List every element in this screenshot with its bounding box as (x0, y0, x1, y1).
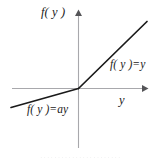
plot-canvas (0, 0, 162, 161)
horizontal-axis-arrowhead (142, 85, 149, 92)
vertical-axis-label: f( y ) (41, 6, 65, 19)
vertical-axis-arrowhead (75, 10, 82, 17)
vertical-axis (75, 10, 82, 149)
caption-partial-text: ....................... (0, 152, 162, 161)
identity-line-label: f( y )=y (110, 59, 145, 71)
scaled-line-label: f( y )=ay (27, 104, 68, 116)
function-plot-figure: f( y ) y f( y )=y f( y )=ay ............… (0, 0, 162, 161)
identity-segment (79, 22, 148, 89)
horizontal-axis-label: y (119, 94, 125, 107)
